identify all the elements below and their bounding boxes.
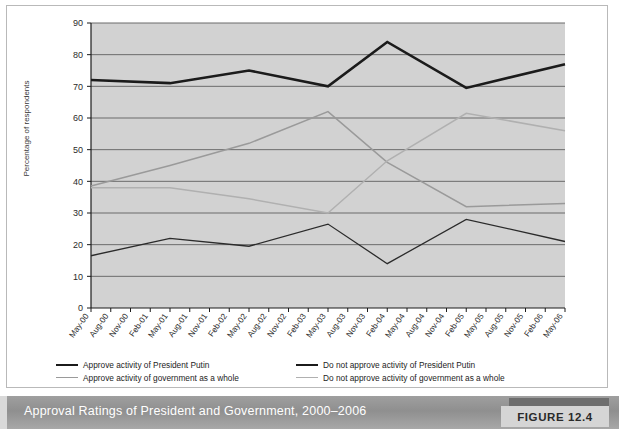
- svg-text:Nov-05: Nov-05: [503, 312, 526, 339]
- figure-number-label: FIGURE 12.4: [517, 411, 593, 423]
- svg-text:May-05: May-05: [463, 312, 486, 340]
- legend-row-2: Approve activity of government as a whol…: [7, 371, 609, 384]
- legend-item-approve-putin: Approve activity of President Putin: [38, 360, 296, 370]
- svg-text:May-04: May-04: [384, 312, 407, 340]
- svg-text:May-06: May-06: [542, 312, 565, 340]
- svg-text:Aug-03: Aug-03: [325, 312, 348, 339]
- svg-text:30: 30: [73, 208, 83, 218]
- badge-box: FIGURE 12.4: [501, 406, 609, 427]
- legend-label: Do not approve activity of government as…: [323, 373, 505, 383]
- chart-container: Percentage of respondents 01020304050607…: [7, 6, 609, 346]
- figure-number-badge: FIGURE 12.4: [501, 398, 609, 427]
- legend-item-not-approve-putin: Do not approve activity of President Put…: [296, 360, 578, 370]
- legend-swatch-line-icon: [56, 364, 78, 366]
- line-chart: 0102030405060708090 May-00Aug-00Nov-00Fe…: [7, 6, 609, 346]
- svg-text:40: 40: [73, 177, 83, 187]
- x-tick-labels: May-00Aug-00Nov-00Feb-01May-01Aug-01Nov-…: [68, 308, 565, 340]
- legend-row-1: Approve activity of President Putin Do n…: [7, 358, 609, 371]
- chart-legend: Approve activity of President Putin Do n…: [7, 358, 609, 386]
- svg-text:90: 90: [73, 18, 83, 28]
- svg-text:Nov-02: Nov-02: [266, 312, 289, 339]
- figure-root: Percentage of respondents 01020304050607…: [0, 0, 619, 429]
- svg-text:Nov-01: Nov-01: [187, 312, 210, 339]
- legend-label: Approve activity of government as a whol…: [83, 373, 239, 383]
- svg-text:Aug-05: Aug-05: [483, 312, 506, 339]
- svg-text:Aug-04: Aug-04: [404, 312, 427, 339]
- figure-caption-bar: Approval Ratings of President and Govern…: [0, 396, 619, 429]
- svg-text:80: 80: [73, 50, 83, 60]
- badge-top-bar: [509, 398, 609, 406]
- svg-text:May-02: May-02: [226, 312, 249, 340]
- svg-text:Aug-02: Aug-02: [246, 312, 269, 339]
- legend-swatch-line-icon: [296, 364, 318, 366]
- legend-item-not-approve-government: Do not approve activity of government as…: [296, 373, 578, 383]
- svg-text:Aug-00: Aug-00: [88, 312, 111, 339]
- legend-swatch-line-icon: [296, 377, 318, 378]
- legend-label: Do not approve activity of President Put…: [323, 360, 475, 370]
- svg-text:60: 60: [73, 113, 83, 123]
- svg-text:Nov-04: Nov-04: [424, 312, 447, 339]
- legend-swatch-line-icon: [56, 377, 78, 378]
- svg-text:Nov-00: Nov-00: [108, 312, 131, 339]
- caption-accent-stripe: [0, 396, 7, 429]
- svg-text:May-03: May-03: [305, 312, 328, 340]
- svg-text:50: 50: [73, 145, 83, 155]
- figure-caption-text: Approval Ratings of President and Govern…: [24, 404, 366, 418]
- svg-text:70: 70: [73, 82, 83, 92]
- svg-text:May-00: May-00: [68, 312, 91, 340]
- y-tick-labels: 0102030405060708090: [73, 18, 83, 313]
- figure-panel: Percentage of respondents 01020304050607…: [6, 5, 608, 388]
- legend-label: Approve activity of President Putin: [83, 360, 209, 370]
- svg-text:20: 20: [73, 240, 83, 250]
- legend-item-approve-government: Approve activity of government as a whol…: [38, 373, 296, 383]
- svg-text:10: 10: [73, 272, 83, 282]
- svg-text:Aug-01: Aug-01: [167, 312, 190, 339]
- svg-text:May-01: May-01: [147, 312, 170, 340]
- svg-text:Nov-03: Nov-03: [345, 312, 368, 339]
